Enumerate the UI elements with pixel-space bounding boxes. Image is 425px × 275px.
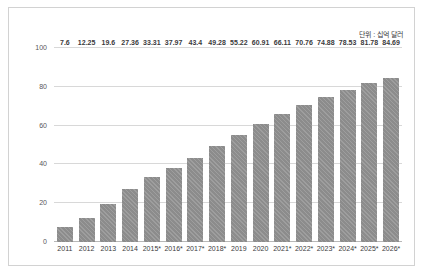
bar[interactable]: 70.76 — [296, 105, 312, 242]
y-tick-label: 20 — [39, 199, 47, 206]
plot-area: 020406080100 7.612.2519.627.3633.3137.97… — [54, 48, 402, 242]
bar-value-label: 7.6 — [60, 39, 70, 46]
y-tick-label: 40 — [39, 160, 47, 167]
bar[interactable]: 60.91 — [253, 124, 269, 242]
bar-value-label: 19.6 — [102, 39, 116, 46]
bar-slot[interactable]: 37.97 — [163, 48, 185, 242]
bar-slot[interactable]: 81.78 — [359, 48, 381, 242]
x-tick-label: 2018* — [206, 245, 228, 252]
bar-value-label: 12.25 — [78, 39, 96, 46]
bar-value-label: 84.69 — [382, 39, 400, 46]
chart-frame: 단위 : 십억 달러 020406080100 7.612.2519.627.3… — [8, 7, 415, 266]
bar-slot[interactable]: 49.28 — [206, 48, 228, 242]
x-tick-label: 2011 — [54, 245, 76, 252]
bar-value-label: 70.76 — [295, 39, 313, 46]
bar[interactable]: 19.6 — [100, 204, 116, 242]
x-tick-label: 2024* — [337, 245, 359, 252]
bar-slot[interactable]: 78.53 — [337, 48, 359, 242]
bar-value-label: 81.78 — [361, 39, 379, 46]
y-tick-label: 100 — [35, 44, 47, 51]
unit-annotation: 단위 : 십억 달러 — [359, 29, 403, 39]
bar-value-label: 33.31 — [143, 39, 161, 46]
bar-value-label: 27.36 — [121, 39, 139, 46]
bar-value-label: 66.11 — [274, 39, 291, 46]
bar-value-label: 37.97 — [165, 39, 183, 46]
x-tick-label: 2020 — [250, 245, 272, 252]
bar-value-label: 49.28 — [208, 39, 226, 46]
x-tick-label: 2015* — [141, 245, 163, 252]
bar[interactable]: 7.6 — [57, 227, 73, 242]
bar-value-label: 43.4 — [189, 39, 203, 46]
bar-slot[interactable]: 7.6 — [54, 48, 76, 242]
x-tick-label: 2013 — [98, 245, 120, 252]
bar-slot[interactable]: 74.88 — [315, 48, 337, 242]
bar-slot[interactable]: 66.11 — [272, 48, 294, 242]
bar[interactable]: 27.36 — [122, 189, 138, 242]
bar-value-label: 60.91 — [252, 39, 270, 46]
bar-slot[interactable]: 19.6 — [98, 48, 120, 242]
x-tick-label: 2016* — [163, 245, 185, 252]
bar[interactable]: 33.31 — [144, 177, 160, 242]
bar-value-label: 78.53 — [339, 39, 357, 46]
bar[interactable]: 84.69 — [383, 78, 399, 242]
bar-series: 7.612.2519.627.3633.3137.9743.449.2855.2… — [54, 48, 402, 242]
x-tick-label: 2021* — [272, 245, 294, 252]
x-tick-label: 2023* — [315, 245, 337, 252]
x-tick-label: 2026* — [380, 245, 402, 252]
x-tick-label: 2014 — [119, 245, 141, 252]
bar[interactable]: 74.88 — [318, 97, 334, 242]
x-tick-label: 2017* — [185, 245, 207, 252]
bar-value-label: 74.88 — [317, 39, 335, 46]
bar-slot[interactable]: 12.25 — [76, 48, 98, 242]
bar-value-label: 55.22 — [230, 39, 248, 46]
bar[interactable]: 66.11 — [274, 114, 290, 242]
bar[interactable]: 37.97 — [166, 168, 182, 242]
x-tick-label: 2019 — [228, 245, 250, 252]
bar[interactable]: 78.53 — [340, 90, 356, 242]
bar-slot[interactable]: 84.69 — [380, 48, 402, 242]
bar-slot[interactable]: 60.91 — [250, 48, 272, 242]
bar-slot[interactable]: 33.31 — [141, 48, 163, 242]
x-axis: 20112012201320142015*2016*2017*2018*2019… — [54, 245, 402, 252]
bar-slot[interactable]: 43.4 — [185, 48, 207, 242]
x-tick-label: 2022* — [293, 245, 315, 252]
x-tick-label: 2012 — [76, 245, 98, 252]
bar[interactable]: 49.28 — [209, 146, 225, 242]
bar[interactable]: 55.22 — [231, 135, 247, 242]
bar[interactable]: 12.25 — [79, 218, 95, 242]
y-tick-label: 60 — [39, 121, 47, 128]
bar-slot[interactable]: 27.36 — [119, 48, 141, 242]
y-tick-label: 0 — [43, 238, 47, 245]
bar-slot[interactable]: 55.22 — [228, 48, 250, 242]
y-tick-label: 80 — [39, 82, 47, 89]
x-tick-label: 2025* — [359, 245, 381, 252]
bar[interactable]: 81.78 — [361, 83, 377, 242]
bar[interactable]: 43.4 — [187, 158, 203, 242]
bar-slot[interactable]: 70.76 — [293, 48, 315, 242]
